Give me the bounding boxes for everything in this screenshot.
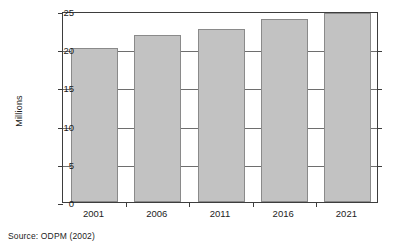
y-axis-title: Millions xyxy=(14,76,24,146)
x-axis-tick xyxy=(189,202,190,207)
y-axis-label: 10 xyxy=(50,121,74,132)
x-axis-label: 2021 xyxy=(336,208,357,219)
y-axis-label: 25 xyxy=(50,7,74,18)
x-axis-label: 2016 xyxy=(273,208,294,219)
x-axis-tick xyxy=(126,202,127,207)
bar xyxy=(324,13,371,202)
source-note: Source: ODPM (2002) xyxy=(8,231,95,241)
bar xyxy=(261,19,308,202)
x-axis-label: 2001 xyxy=(83,208,104,219)
bars-group xyxy=(63,13,377,202)
x-axis-tick xyxy=(316,202,317,207)
x-axis-label: 2006 xyxy=(146,208,167,219)
x-axis-label: 2011 xyxy=(210,208,230,219)
bar xyxy=(134,35,181,202)
y-axis-tick-right xyxy=(377,89,382,90)
y-axis-label: 20 xyxy=(50,45,74,56)
y-axis-label: 0 xyxy=(50,198,74,209)
bar-chart-figure: Millions 0510152025 20012006201120162021… xyxy=(0,0,407,252)
y-axis-tick-right xyxy=(377,51,382,52)
y-axis-tick-right xyxy=(377,166,382,167)
bar xyxy=(198,29,245,202)
plot-area xyxy=(62,12,378,203)
y-axis-label: 15 xyxy=(50,83,74,94)
y-axis-label: 5 xyxy=(50,159,74,170)
bar xyxy=(71,48,118,202)
y-axis-tick-right xyxy=(377,128,382,129)
x-axis-tick xyxy=(253,202,254,207)
plot-inner xyxy=(63,13,377,202)
